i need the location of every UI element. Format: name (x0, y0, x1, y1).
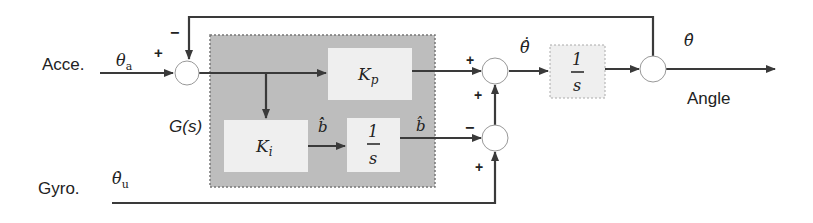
sum-junction-1 (175, 61, 199, 85)
sum3-plus-sign: + (475, 159, 483, 175)
sum1-plus-sign: + (154, 44, 163, 61)
controller-label: G(s) (169, 117, 202, 136)
theta-hat-label: θ̂ (684, 31, 694, 50)
inner-integrator-numerator: 1 (368, 122, 378, 141)
bias-rate-label: b̂̇ (318, 117, 328, 136)
sum2-plus-top-sign: + (466, 52, 474, 68)
gyro-signal-label: θ̇u (112, 169, 129, 191)
sum2-plus-bottom-sign: + (474, 87, 482, 103)
block-diagram: Acce. θa Gyro. θ̇u + − + + − + G(s) Kp K… (0, 0, 813, 223)
theta-dot-hat-label: θ̂̇ (520, 37, 530, 57)
outer-integrator-denominator: s (573, 76, 581, 95)
gyro-label: Gyro. (38, 179, 80, 198)
sum-junction-3 (482, 125, 508, 151)
inner-integrator-denominator: s (369, 149, 377, 168)
sum-junction-4 (640, 56, 666, 82)
acce-label: Acce. (42, 55, 85, 74)
sum1-minus-sign: − (170, 24, 179, 41)
acce-signal-label: θa (116, 51, 133, 73)
angle-label: Angle (687, 89, 730, 108)
sum3-minus-sign: − (465, 119, 474, 136)
bias-label: b̂ (416, 116, 426, 135)
outer-integrator-numerator: 1 (572, 50, 582, 69)
sum-junction-2 (482, 58, 508, 84)
